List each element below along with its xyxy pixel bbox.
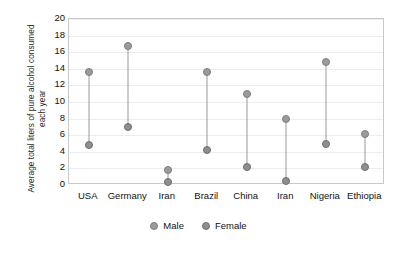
gridline [69, 135, 383, 136]
data-point-female[interactable] [361, 163, 369, 171]
x-axis-tick-label: China [233, 190, 258, 202]
dumbbell-chart: Average total liters of pure alcohol con… [0, 0, 397, 256]
y-axis-tick-label: 0 [60, 179, 65, 189]
gridline [69, 19, 383, 20]
data-point-male[interactable] [282, 115, 290, 123]
data-point-female[interactable] [164, 178, 172, 186]
legend-item-female[interactable]: Female [202, 221, 247, 231]
y-axis-tick-label: 16 [54, 46, 65, 56]
y-axis-tick-label: 2 [60, 163, 65, 173]
x-axis-tick-label: Iran [159, 190, 175, 202]
connector-line [88, 72, 89, 145]
data-point-female[interactable] [243, 163, 251, 171]
legend-item-label: Female [215, 221, 247, 231]
y-axis-tick-label: 18 [54, 30, 65, 40]
data-point-female[interactable] [322, 140, 330, 148]
data-point-male[interactable] [361, 130, 369, 138]
circle-marker-icon [150, 222, 158, 230]
data-point-male[interactable] [243, 90, 251, 98]
connector-line [207, 72, 208, 150]
gridline [69, 52, 383, 53]
legend-item-label: Male [163, 221, 184, 231]
x-axis-tick-label: Nigeria [310, 190, 340, 202]
gridline [69, 168, 383, 169]
data-point-female[interactable] [85, 141, 93, 149]
y-axis-tick-label: 8 [60, 113, 65, 123]
x-axis-tick-label: Brazil [194, 190, 218, 202]
y-axis-tick-label: 12 [54, 80, 65, 90]
data-point-male[interactable] [85, 68, 93, 76]
data-point-male[interactable] [164, 166, 172, 174]
gridline [69, 119, 383, 120]
connector-line [286, 119, 287, 181]
gridline [69, 36, 383, 37]
connector-line [365, 134, 366, 167]
connector-line [128, 46, 129, 127]
y-axis-tick-label: 4 [60, 146, 65, 156]
gridline [69, 152, 383, 153]
x-axis-tick-label: Ethiopia [347, 190, 381, 202]
y-axis-tick-label: 6 [60, 129, 65, 139]
connector-line [325, 62, 326, 143]
data-point-male[interactable] [124, 42, 132, 50]
legend-item-male[interactable]: Male [150, 221, 184, 231]
y-axis-tick-labels: 20181614121086420 [40, 18, 65, 184]
y-axis-tick-label: 10 [54, 96, 65, 106]
circle-marker-icon [202, 222, 210, 230]
y-axis-tick-label: 20 [54, 13, 65, 23]
data-point-female[interactable] [124, 123, 132, 131]
data-point-male[interactable] [322, 58, 330, 66]
data-point-female[interactable] [203, 146, 211, 154]
plot-area [68, 18, 384, 184]
connector-line [246, 94, 247, 167]
gridline [69, 69, 383, 70]
x-axis-tick-label: Germany [108, 190, 147, 202]
x-axis-tick-label: USA [78, 190, 98, 202]
x-axis-tick-label: Iran [277, 190, 293, 202]
y-axis-tick-label: 14 [54, 63, 65, 73]
data-point-male[interactable] [203, 68, 211, 76]
gridline [69, 102, 383, 103]
chart-legend: MaleFemale [0, 221, 397, 231]
gridline [69, 85, 383, 86]
data-point-female[interactable] [282, 177, 290, 185]
x-axis-tick-labels: USAGermanyIranBrazilChinaIranNigeriaEthi… [68, 190, 384, 204]
